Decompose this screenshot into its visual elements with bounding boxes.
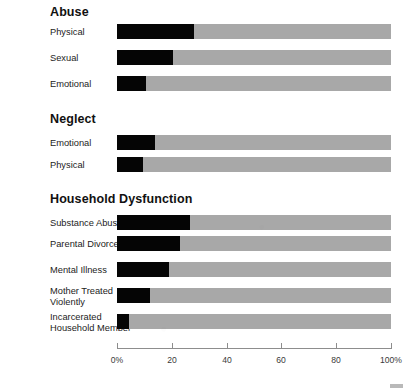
- group-heading-neglect: Neglect: [50, 112, 96, 126]
- x-axis-tick-100: [391, 343, 392, 349]
- bar-fill-substance-abuse: [117, 215, 190, 230]
- category-label-mother-treated-violently: Mother Treated Violently: [50, 286, 113, 307]
- x-axis-label-0: 0%: [102, 355, 132, 365]
- x-axis-tick-20: [172, 343, 173, 349]
- bar-fill-mental-illness: [117, 262, 169, 277]
- bar-track-abuse-emotional: [117, 76, 391, 91]
- category-label-neglect-emotional: Emotional: [50, 138, 91, 149]
- x-axis-label-100: 100%: [374, 355, 408, 365]
- category-label-substance-abuse: Substance Abuse: [50, 218, 122, 229]
- bar-track-mental-illness: [117, 262, 391, 277]
- bar-fill-neglect-physical: [117, 157, 143, 172]
- category-label-abuse-sexual: Sexual: [50, 53, 78, 64]
- category-label-abuse-emotional: Emotional: [50, 79, 91, 90]
- category-label-incarcerated-line1: Incarcerated: [50, 312, 102, 322]
- x-axis-label-20: 20: [157, 355, 187, 365]
- bar-track-abuse-physical: [117, 24, 391, 39]
- category-label-parental-divorce: Parental Divorce: [50, 239, 119, 250]
- bar-fill-abuse-sexual: [117, 50, 173, 65]
- bar-track-neglect-physical: [117, 157, 391, 172]
- category-label-mental-illness: Mental Illness: [50, 265, 107, 276]
- bar-fill-parental-divorce: [117, 236, 180, 251]
- x-axis-tick-80: [336, 343, 337, 349]
- bar-track-mother-treated-violently: [117, 288, 391, 303]
- bar-fill-abuse-physical: [117, 24, 194, 39]
- category-label-abuse-physical: Physical: [50, 27, 85, 38]
- x-axis-line: [117, 348, 392, 349]
- x-axis-tick-0: [117, 343, 118, 349]
- group-heading-abuse: Abuse: [50, 5, 89, 19]
- group-heading-household-dysfunction: Household Dysfunction: [50, 192, 192, 206]
- x-axis-label-40: 40: [212, 355, 242, 365]
- bar-fill-neglect-emotional: [117, 135, 155, 150]
- bar-track-neglect-emotional: [117, 135, 391, 150]
- bar-track-incarcerated-household-member: [117, 314, 391, 329]
- x-axis-tick-40: [227, 343, 228, 349]
- bar-track-substance-abuse: [117, 215, 391, 230]
- category-label-neglect-physical: Physical: [50, 160, 85, 171]
- aces-prevalence-chart: Abuse Physical Sexual Emotional Neglect …: [0, 0, 409, 392]
- x-axis-label-60: 60: [266, 355, 296, 365]
- bar-track-abuse-sexual: [117, 50, 391, 65]
- page-corner-mark: [390, 384, 403, 388]
- x-axis-label-80: 80: [321, 355, 351, 365]
- x-axis-tick-60: [281, 343, 282, 349]
- bar-fill-incarcerated-household-member: [117, 314, 129, 329]
- category-label-mother-line1: Mother Treated: [50, 286, 113, 296]
- bar-fill-abuse-emotional: [117, 76, 146, 91]
- bar-fill-mother-treated-violently: [117, 288, 150, 303]
- bar-track-parental-divorce: [117, 236, 391, 251]
- category-label-mother-line2: Violently: [50, 297, 85, 307]
